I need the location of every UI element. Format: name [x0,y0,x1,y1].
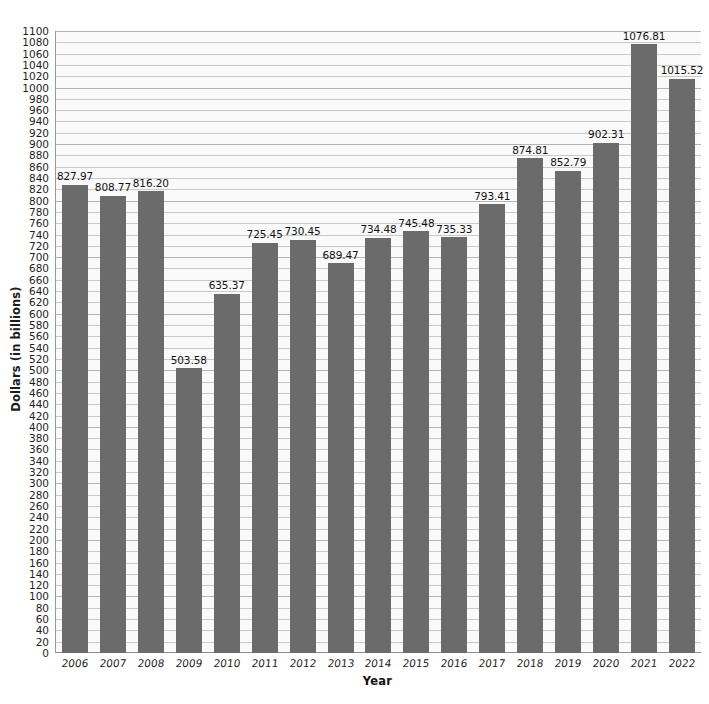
bar[interactable] [252,243,278,653]
y-axis-tick-label: 20 [0,636,56,647]
y-axis-tick-label: 360 [0,444,56,455]
y-axis-tick-label: 500 [0,365,56,376]
y-axis-tick-label: 800 [0,195,56,206]
bar[interactable] [138,191,164,653]
bar[interactable] [290,240,316,653]
y-axis-tick-label: 860 [0,161,56,172]
bar[interactable] [100,196,126,653]
bar[interactable] [176,368,202,653]
bar-group: 1015.522022 [663,31,701,653]
bar[interactable] [365,238,391,653]
bar-group: 730.452012 [284,31,322,653]
y-axis-tick-label: 480 [0,376,56,387]
bar[interactable] [631,44,657,653]
y-axis-tick-label: 580 [0,320,56,331]
x-axis-tick-label: 2007 [99,657,127,669]
bar-value-label: 902.31 [588,129,624,140]
y-axis-tick-label: 1020 [0,71,56,82]
bar[interactable] [593,143,619,653]
y-axis-tick-label: 780 [0,207,56,218]
y-axis-tick-label: 100 [0,591,56,602]
bar-value-label: 730.45 [285,226,321,237]
bar-group: 874.812018 [511,31,549,653]
y-axis-tick-label: 600 [0,308,56,319]
x-axis-tick-label: 2013 [326,657,354,669]
y-axis-tick-label: 920 [0,128,56,139]
bar-group: 734.482014 [360,31,398,653]
bar-group: 827.972006 [56,31,94,653]
y-axis-tick-label: 200 [0,535,56,546]
bar[interactable] [517,158,543,653]
y-axis-tick-label: 160 [0,557,56,568]
bar-group: 503.582009 [170,31,208,653]
bar-value-label: 745.48 [398,218,434,229]
y-axis-tick-label: 1080 [0,37,56,48]
y-axis-tick-label: 900 [0,139,56,150]
bar-value-label: 827.97 [57,171,93,182]
bar[interactable] [479,204,505,653]
bar-value-label: 689.47 [322,250,358,261]
bar-group: 902.312020 [587,31,625,653]
bar-value-label: 874.81 [512,145,548,156]
x-axis-tick-label: 2019 [554,657,582,669]
y-axis-tick-label: 240 [0,512,56,523]
y-axis-tick-label: 120 [0,580,56,591]
y-axis-tick-label: 280 [0,489,56,500]
y-axis-tick-label: 760 [0,218,56,229]
x-axis-tick-label: 2018 [516,657,544,669]
bar-value-label: 735.33 [436,224,472,235]
x-axis-tick-label: 2021 [630,657,658,669]
y-axis-tick-label: 840 [0,173,56,184]
bar[interactable] [555,171,581,653]
bar[interactable] [328,263,354,653]
bar-value-label: 635.37 [209,280,245,291]
y-axis-tick-label: 620 [0,297,56,308]
bar[interactable] [441,237,467,653]
y-axis-tick-label: 440 [0,399,56,410]
y-axis-tick-label: 1000 [0,82,56,93]
bar[interactable] [214,294,240,653]
bar-group: 635.372010 [208,31,246,653]
x-axis-tick-label: 2006 [61,657,89,669]
y-axis-tick-label: 720 [0,241,56,252]
plot-area: 0204060801001201401601802002202402602803… [55,31,701,653]
x-axis-tick-label: 2022 [668,657,696,669]
bar[interactable] [403,231,429,653]
bar-group: 745.482015 [397,31,435,653]
y-axis-tick-label: 340 [0,455,56,466]
y-axis-tick-label: 0 [0,648,56,659]
y-axis-tick-label: 380 [0,433,56,444]
x-axis-tick-label: 2020 [592,657,620,669]
y-axis-tick-label: 320 [0,467,56,478]
y-axis-tick-label: 520 [0,354,56,365]
bar-value-label: 852.79 [550,157,586,168]
y-axis-tick-label: 700 [0,252,56,263]
x-axis-tick-label: 2010 [213,657,241,669]
x-axis-tick-label: 2008 [137,657,165,669]
y-axis-tick-label: 680 [0,263,56,274]
bar[interactable] [62,185,88,653]
y-axis-tick-label: 1060 [0,48,56,59]
bar[interactable] [669,79,695,653]
x-axis-tick-label: 2016 [440,657,468,669]
bar-value-label: 793.41 [474,191,510,202]
y-axis-tick-label: 60 [0,614,56,625]
bar-value-label: 503.58 [171,355,207,366]
bars-group: 827.972006808.772007816.202008503.582009… [56,31,701,653]
bar-value-label: 725.45 [247,229,283,240]
y-axis-tick-label: 1100 [0,26,56,37]
y-axis-tick-label: 1040 [0,60,56,71]
y-axis-tick-label: 960 [0,105,56,116]
y-axis-tick-label: 560 [0,331,56,342]
x-axis-tick-label: 2011 [251,657,279,669]
bar-value-label: 734.48 [360,224,396,235]
x-axis-tick-label: 2012 [289,657,317,669]
y-axis-tick-label: 40 [0,625,56,636]
y-axis-tick-label: 660 [0,275,56,286]
y-axis-tick-label: 540 [0,342,56,353]
bar-group: 689.472013 [322,31,360,653]
bar-value-label: 1015.52 [661,65,704,76]
y-axis-tick-label: 420 [0,410,56,421]
bar-group: 793.412017 [473,31,511,653]
bar-group: 1076.812021 [625,31,663,653]
